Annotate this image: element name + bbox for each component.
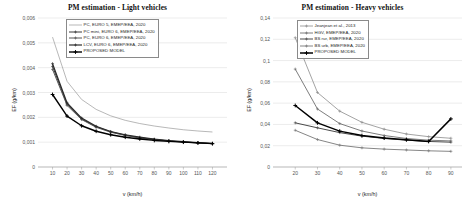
legend-marker-icon [300, 50, 313, 56]
legend-item: BS rur, EMEP/EEA, 2020 [300, 36, 365, 43]
legend-marker-icon [69, 22, 82, 28]
legend-marker-icon [300, 23, 313, 29]
x-tick-label: 120 [208, 170, 216, 176]
x-tick-label: 50 [359, 170, 365, 176]
legend-item: LCV, EURO 6, EMEP/EEA, 2020 [69, 42, 155, 49]
legend-label: LCV, EURO 6, EMEP/EEA, 2020 [84, 42, 148, 49]
x-tick-label: 40 [337, 170, 343, 176]
legend-item: Jeanjean et al., 2013 [300, 23, 365, 30]
legend-item: HGV, EMEP/EEA, 2020 [300, 30, 365, 37]
x-tick-label: 80 [426, 170, 432, 176]
legend-label: PC, EURO 6, EMEP/EEA, 2020 [84, 35, 146, 42]
x-tick-label: 10 [50, 170, 56, 176]
legend-light: PC, EURO 5, EMEP/EEA, 2020PC mini, EURO … [66, 19, 159, 58]
y-tick-label: 0 [32, 164, 35, 170]
legend-item: PROPOSED MODEL [69, 48, 155, 55]
legend-marker-icon [69, 49, 82, 55]
y-tick-label: 0,1 [263, 58, 270, 64]
y-tick-label: 0,001 [22, 139, 35, 145]
x-tick-label: 30 [79, 170, 85, 176]
chart-panel-light-vehicles: PM estimation - Light vehicles EF (g/km)… [0, 0, 235, 199]
x-tick-label: 50 [108, 170, 114, 176]
chart-panel-heavy-vehicles: PM estimation - Heavy vehicles EF (g/km)… [235, 0, 470, 199]
chart-title-heavy: PM estimation - Heavy vehicles [235, 3, 470, 12]
y-tick-label: 0,04 [260, 121, 270, 127]
x-axis-label-light: v (km/h) [38, 191, 227, 197]
legend-label: HGV, EMEP/EEA, 2020 [315, 30, 361, 37]
y-tick-label: 0 [267, 164, 270, 170]
legend-item: PC mini, EURO 6, EMEP/EEA, 2020 [69, 29, 155, 36]
legend-marker-icon [300, 43, 313, 49]
y-tick-label: 0,12 [260, 36, 270, 42]
legend-label: PC, EURO 5, EMEP/EEA, 2020 [84, 22, 146, 29]
legend-item: PC, EURO 6, EMEP/EEA, 2020 [69, 35, 155, 42]
y-tick-label: 0,006 [22, 15, 35, 21]
legend-label: BS urb, EMEP/EEA, 2020 [315, 43, 366, 50]
legend-marker-icon [69, 42, 82, 48]
x-tick-label: 80 [152, 170, 158, 176]
y-tick-label: 0,003 [22, 90, 35, 96]
x-tick-label: 70 [137, 170, 143, 176]
x-tick-label: 60 [122, 170, 128, 176]
legend-label: PROPOSED MODEL [84, 48, 126, 55]
legend-item: PC, EURO 5, EMEP/EEA, 2020 [69, 22, 155, 29]
legend-label: BS rur, EMEP/EEA, 2020 [315, 36, 364, 43]
y-tick-label: 0,002 [22, 114, 35, 120]
x-tick-label: 100 [179, 170, 187, 176]
y-axis-ticks-heavy: 00,020,040,060,080,10,120,14 [235, 18, 270, 167]
x-axis-ticks-heavy: 2030405060708090 [273, 170, 462, 179]
legend-marker-icon [69, 29, 82, 35]
legend-marker-icon [300, 30, 313, 36]
y-tick-label: 0,02 [260, 143, 270, 149]
x-tick-label: 20 [292, 170, 298, 176]
legend-marker-icon [300, 36, 313, 42]
x-tick-label: 20 [64, 170, 70, 176]
x-tick-label: 60 [381, 170, 387, 176]
x-tick-label: 110 [194, 170, 202, 176]
y-tick-label: 0,004 [22, 65, 35, 71]
y-tick-label: 0,08 [260, 79, 270, 85]
legend-item: PROPOSED MODEL [300, 49, 365, 56]
legend-label: Jeanjean et al., 2013 [315, 23, 356, 30]
y-axis-ticks-light: 00,0010,0020,0030,0040,0050,006 [0, 18, 35, 167]
y-tick-label: 0,005 [22, 40, 35, 46]
x-axis-ticks-light: 102030405060708090100110120 [38, 170, 227, 179]
legend-label: PROPOSED MODEL [315, 49, 357, 56]
x-tick-label: 90 [448, 170, 454, 176]
y-tick-label: 0,06 [260, 100, 270, 106]
x-axis-label-heavy: v (km/h) [273, 191, 462, 197]
figure-two-panel-chart: PM estimation - Light vehicles EF (g/km)… [0, 0, 470, 199]
legend-label: PC mini, EURO 6, EMEP/EEA, 2020 [84, 29, 155, 36]
x-tick-label: 40 [93, 170, 99, 176]
y-tick-label: 0,14 [260, 15, 270, 21]
x-tick-label: 90 [166, 170, 172, 176]
legend-heavy: Jeanjean et al., 2013HGV, EMEP/EEA, 2020… [297, 20, 369, 59]
x-tick-label: 30 [315, 170, 321, 176]
x-tick-label: 70 [404, 170, 410, 176]
legend-item: BS urb, EMEP/EEA, 2020 [300, 43, 365, 50]
legend-marker-icon [69, 35, 82, 41]
chart-title-light: PM estimation - Light vehicles [0, 3, 235, 12]
